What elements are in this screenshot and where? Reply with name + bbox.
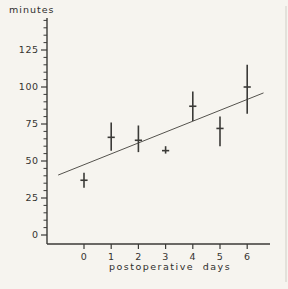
figure-minutes-vs-postoperative-days: minutes 02550751001250123456 postoperati…: [0, 0, 288, 289]
x-tick-label: 0: [81, 251, 88, 262]
trend-line: [58, 93, 263, 175]
y-tick-label: 125: [19, 44, 39, 55]
y-tick-label: 100: [19, 81, 39, 92]
y-tick-label: 50: [25, 155, 38, 166]
y-tick-label: 75: [25, 118, 38, 129]
x-axis-title: postoperative days: [109, 261, 231, 272]
y-tick-label: 25: [25, 192, 38, 203]
y-tick-label: 0: [32, 229, 39, 240]
x-tick-label: 6: [244, 251, 251, 262]
chart-canvas: 02550751001250123456: [0, 0, 288, 289]
y-axis-title: minutes: [9, 4, 54, 15]
scan-edge-artifact: [285, 6, 287, 282]
